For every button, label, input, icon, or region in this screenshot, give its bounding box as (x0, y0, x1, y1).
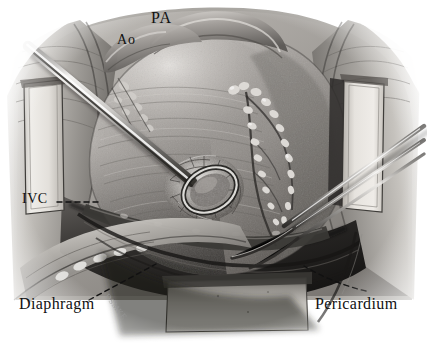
label-pericardium: Pericardium (315, 295, 398, 313)
label-diaphragm: Diaphragm (19, 295, 95, 313)
surgical-illustration-figure: PA Ao IVC Diaphragm Pericardium DSMKE (0, 0, 427, 354)
label-aorta: Ao (117, 32, 136, 48)
label-inferior-vena-cava: IVC (22, 191, 48, 207)
label-pulmonary-artery: PA (151, 9, 172, 27)
